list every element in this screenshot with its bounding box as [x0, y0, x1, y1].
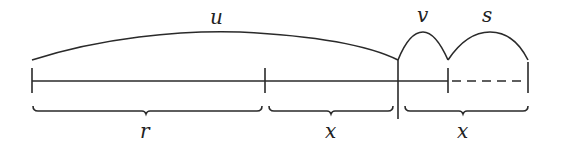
arc-u	[32, 32, 398, 60]
brace-r	[33, 106, 262, 114]
segment-diagram: u v s r x x	[0, 0, 562, 142]
brace-x1	[269, 106, 393, 114]
arc-s	[448, 32, 528, 60]
label-u: u	[210, 5, 223, 29]
label-v: v	[417, 3, 429, 27]
label-s: s	[482, 3, 492, 27]
label-r: r	[140, 119, 151, 142]
arc-v	[398, 32, 448, 60]
label-x-middle: x	[325, 119, 336, 142]
label-x-right: x	[457, 119, 468, 142]
brace-x2	[405, 106, 528, 114]
